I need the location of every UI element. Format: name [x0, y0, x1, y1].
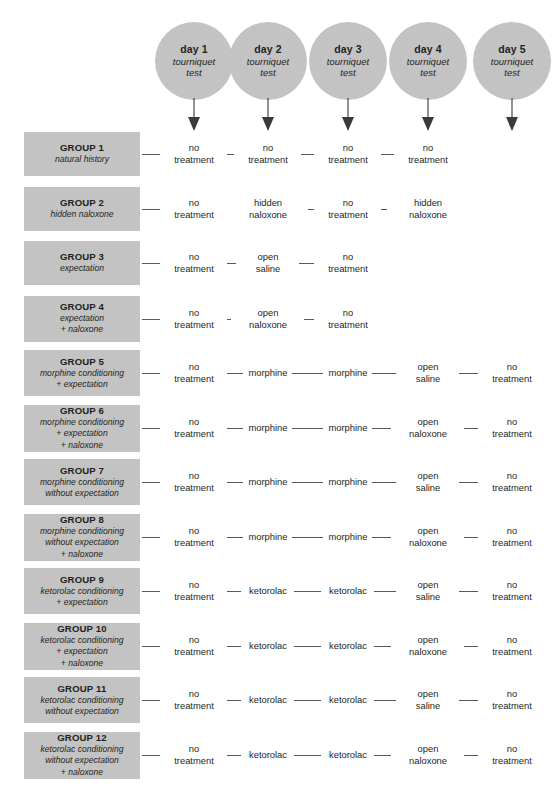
treatment-line1: ketorolac — [329, 694, 367, 706]
group-subtitle-line: ketorolac conditioning — [40, 695, 123, 706]
group-title: GROUP 2 — [60, 197, 104, 209]
connector-line — [459, 482, 478, 483]
treatment-line2: naloxone — [249, 319, 287, 331]
treatment-cell-g5-d3: morphine — [328, 367, 367, 379]
day-test-line1: tourniquet — [407, 56, 449, 67]
group-box-9[interactable]: GROUP 9ketorolac conditioning+ expectati… — [24, 568, 140, 614]
day-test-line2: test — [186, 67, 201, 78]
connector-line — [372, 428, 392, 429]
day-test-line1: tourniquet — [173, 56, 215, 67]
connector-line — [304, 319, 314, 320]
connector-line — [142, 263, 160, 264]
figure-caption-strip — [0, 788, 560, 796]
treatment-line1: no — [174, 634, 214, 646]
treatment-line2: naloxone — [409, 646, 447, 658]
treatment-line1: morphine — [328, 422, 367, 434]
connector-line — [142, 428, 160, 429]
treatment-line1: no — [492, 525, 532, 537]
treatment-line2: treatment — [174, 373, 214, 385]
day-circle-1: day 1tourniquettest — [155, 22, 233, 100]
treatment-line2: naloxone — [409, 428, 447, 440]
group-box-3[interactable]: GROUP 3expectation — [24, 241, 140, 285]
connector-line — [374, 755, 391, 756]
connector-line — [294, 591, 321, 592]
treatment-line2: treatment — [174, 154, 214, 166]
group-box-2[interactable]: GROUP 2hidden naloxone — [24, 187, 140, 231]
treatment-line2: naloxone — [409, 755, 447, 767]
connector-line — [142, 373, 160, 374]
treatment-cell-g6-d1: notreatment — [174, 416, 214, 440]
treatment-cell-g6-d2: morphine — [248, 422, 287, 434]
treatment-line2: treatment — [328, 209, 368, 221]
treatment-line1: ketorolac — [249, 585, 287, 597]
treatment-line2: naloxone — [409, 209, 447, 221]
treatment-line2: treatment — [174, 591, 214, 603]
group-title: GROUP 4 — [60, 301, 104, 313]
connector-line — [464, 428, 478, 429]
treatment-line2: treatment — [174, 646, 214, 658]
connector-line — [142, 700, 160, 701]
treatment-line2: treatment — [174, 428, 214, 440]
group-box-5[interactable]: GROUP 5morphine conditioning+ expectatio… — [24, 350, 140, 396]
connector-line — [374, 700, 396, 701]
treatment-line1: ketorolac — [329, 585, 367, 597]
connector-line — [142, 755, 160, 756]
treatment-line2: treatment — [492, 373, 532, 385]
connector-line — [374, 591, 396, 592]
treatment-cell-g1-d1: notreatment — [174, 142, 214, 166]
group-subtitle-line: hidden naloxone — [50, 209, 113, 220]
treatment-line2: treatment — [174, 263, 214, 275]
treatment-cell-g7-d2: morphine — [248, 476, 287, 488]
treatment-line1: no — [408, 142, 448, 154]
connector-line — [227, 755, 241, 756]
group-title: GROUP 3 — [60, 251, 104, 263]
treatment-cell-g9-d2: ketorolac — [249, 585, 287, 597]
group-subtitle-line: + expectation — [56, 646, 107, 657]
treatment-cell-g10-d2: ketorolac — [249, 640, 287, 652]
group-box-8[interactable]: GROUP 8morphine conditioningwithout expe… — [24, 514, 140, 561]
day-label: day 2 — [254, 43, 281, 55]
group-box-4[interactable]: GROUP 4expectation+ naloxone — [24, 296, 140, 342]
group-box-1[interactable]: GROUP 1natural history — [24, 132, 140, 176]
group-box-10[interactable]: GROUP 10ketorolac conditioning+ expectat… — [24, 623, 140, 670]
treatment-cell-g11-d4: opensaline — [416, 688, 441, 712]
connector-line — [227, 646, 241, 647]
group-subtitle-line: + naloxone — [61, 549, 103, 560]
treatment-line2: saline — [416, 700, 441, 712]
day-circle-5: day 5tourniquettest — [473, 22, 551, 100]
group-subtitle-line: + expectation — [56, 597, 107, 608]
treatment-line2: treatment — [328, 154, 368, 166]
treatment-line1: no — [174, 470, 214, 482]
treatment-line1: no — [248, 142, 288, 154]
treatment-cell-g11-d5: notreatment — [492, 688, 532, 712]
group-box-12[interactable]: GROUP 12ketorolac conditioningwithout ex… — [24, 732, 140, 779]
treatment-cell-g11-d1: notreatment — [174, 688, 214, 712]
connector-line — [142, 482, 160, 483]
connector-line — [372, 373, 396, 374]
treatment-cell-g4-d2: opennaloxone — [249, 306, 287, 330]
treatment-line2: treatment — [492, 537, 532, 549]
treatment-cell-g8-d5: notreatment — [492, 525, 532, 549]
day-test-line1: tourniquet — [247, 56, 289, 67]
treatment-cell-g2-d2: hiddennaloxone — [249, 196, 287, 220]
treatment-line2: treatment — [174, 700, 214, 712]
treatment-cell-g4-d3: notreatment — [328, 306, 368, 330]
group-box-7[interactable]: GROUP 7morphine conditioningwithout expe… — [24, 459, 140, 505]
treatment-line1: no — [174, 525, 214, 537]
connector-line — [227, 154, 234, 155]
group-title: GROUP 9 — [60, 574, 104, 586]
treatment-line1: no — [174, 361, 214, 373]
treatment-cell-g3-d3: notreatment — [328, 251, 368, 275]
treatment-cell-g7-d4: opensaline — [416, 470, 441, 494]
connector-line — [227, 428, 243, 429]
group-subtitle-line: + expectation — [56, 428, 107, 439]
connector-line — [381, 154, 394, 155]
treatment-cell-g3-d2: opensaline — [256, 251, 281, 275]
treatment-line1: open — [249, 306, 287, 318]
treatment-cell-g1-d4: notreatment — [408, 142, 448, 166]
treatment-line1: no — [492, 743, 532, 755]
group-title: GROUP 5 — [60, 356, 104, 368]
group-box-11[interactable]: GROUP 11ketorolac conditioningwithout ex… — [24, 677, 140, 723]
treatment-cell-g4-d1: notreatment — [174, 306, 214, 330]
group-box-6[interactable]: GROUP 6morphine conditioning+ expectatio… — [24, 405, 140, 452]
